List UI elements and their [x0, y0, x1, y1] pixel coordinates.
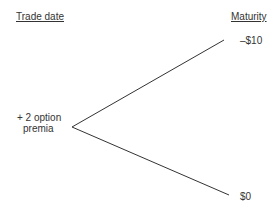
upper-branch — [72, 40, 224, 127]
lower-branch — [72, 127, 229, 195]
payoff-tree — [0, 0, 280, 209]
